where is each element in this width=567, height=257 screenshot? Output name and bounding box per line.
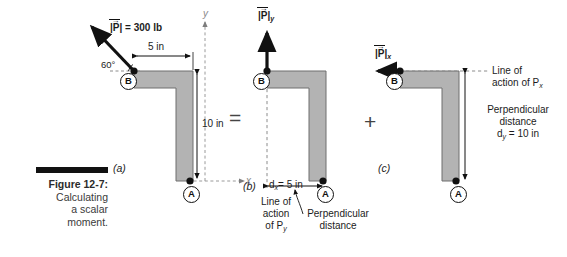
panel-a-point-a-dot <box>186 177 193 184</box>
vector-arrow-icon: → <box>111 17 119 25</box>
panel-c-perp-line-2: distance <box>474 116 562 128</box>
panel-c-loa-line-2: action of Px <box>492 77 543 92</box>
panel-a-dim-5in <box>137 52 193 70</box>
plus-operator: + <box>364 111 376 132</box>
panel-a-y-axis-label: y <box>203 8 208 20</box>
panel-b-perpendicular-text: Perpendicular distance <box>296 208 380 232</box>
panel-c-body <box>400 71 459 181</box>
panel-a-angle-label: 60° <box>101 59 115 71</box>
panel-b-loa-line-1: Line of <box>246 196 306 208</box>
panel-c-perp-line-3: dy = 10 in <box>474 128 562 143</box>
caption-rule <box>36 167 108 173</box>
panel-c-point-b-label: B <box>386 73 403 90</box>
panel-a-force-label: |P→|| | = 300 lb = 300 lb <box>110 22 162 34</box>
panel-b-point-b-label: B <box>253 73 270 90</box>
panel-a-body <box>134 71 193 181</box>
panel-b-distance-label: dx= 5 in <box>269 179 303 194</box>
panel-a-force-value: 300 lb <box>134 22 162 33</box>
figure-12-7: Figure 12-7: Calculating a scalar moment… <box>0 0 567 257</box>
panel-b-point-a-label: A <box>317 186 334 203</box>
caption-line-3: moment. <box>6 216 108 229</box>
panel-c-perpendicular-text: Perpendicular distance dy = 10 in <box>474 104 562 143</box>
panel-b-id: (b) <box>243 180 256 192</box>
panel-b-perp-line-1: Perpendicular <box>296 208 380 220</box>
panel-b-force-subscript: y <box>270 15 274 22</box>
vector-arrow-icon: → <box>376 43 384 51</box>
figure-caption: Figure 12-7: Calculating a scalar moment… <box>6 167 108 228</box>
panel-c-point-a-dot <box>452 177 459 184</box>
panel-b-perp-line-2: distance <box>296 220 380 232</box>
panel-a-id: (a) <box>113 162 126 174</box>
panel-c-force-subscript: x <box>387 53 391 60</box>
vector-arrow-icon: → <box>259 5 267 13</box>
panel-a-point-b-label: B <box>120 73 137 90</box>
panel-c-line-of-action-text: Line of action of Px <box>492 65 543 92</box>
caption-line-2: a scalar <box>6 203 108 216</box>
panel-c-id: (c) <box>378 162 390 174</box>
panel-b-point-a-dot <box>319 177 326 184</box>
panel-b-body <box>267 71 326 181</box>
caption-line-1: Calculating <box>6 191 108 204</box>
panel-a-dim-5in-label: 5 in <box>148 41 164 53</box>
panel-c-point-a-label: A <box>450 186 467 203</box>
panel-b-force-label-py: |P→|y <box>258 10 274 25</box>
panel-a-dim-10in-label: 10 in <box>202 118 224 130</box>
panel-c-perp-line-1: Perpendicular <box>474 104 562 116</box>
panel-c-loa-line-1: Line of <box>492 65 543 77</box>
equals-operator: = <box>229 107 241 128</box>
panel-a-point-a-label: A <box>183 186 200 203</box>
figure-number: Figure 12-7: <box>6 178 108 191</box>
panel-c-force-label-px: |P→|x <box>375 48 391 63</box>
